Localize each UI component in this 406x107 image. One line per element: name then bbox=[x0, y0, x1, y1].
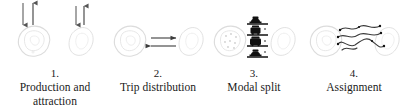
four-step-model-figure: 1. Production and attraction bbox=[0, 0, 406, 107]
step-4-number: 4. bbox=[302, 66, 406, 80]
step-4-artwork bbox=[302, 0, 406, 68]
step-2-label-line-1: Trip distribution bbox=[110, 80, 206, 94]
zone-blob-2a bbox=[114, 26, 145, 56]
step-1-label-line-1: Production and bbox=[0, 80, 110, 94]
step-3-caption: 3. Modal split bbox=[206, 66, 302, 94]
step-modal-split: 3. Modal split bbox=[206, 0, 302, 107]
mode-train-icon bbox=[250, 37, 261, 47]
step-3-label-line-1: Modal split bbox=[206, 80, 302, 94]
assignment-network-routes bbox=[338, 25, 384, 50]
step-3-artwork bbox=[206, 0, 302, 68]
step-1-artwork bbox=[0, 0, 110, 68]
step-trip-distribution: 2. Trip distribution bbox=[110, 0, 206, 107]
step-2-artwork bbox=[110, 0, 206, 68]
trip-origin-dots bbox=[224, 33, 237, 49]
mode-car-icon bbox=[250, 17, 262, 24]
step-production-attraction: 1. Production and attraction bbox=[0, 0, 110, 107]
route-1 bbox=[340, 25, 380, 30]
step-1-caption: 1. Production and attraction bbox=[0, 66, 110, 107]
route-4 bbox=[342, 48, 357, 50]
step-3-number: 3. bbox=[206, 66, 302, 80]
step-1-label-line-2: attraction bbox=[0, 94, 110, 107]
route-2 bbox=[338, 33, 381, 37]
zone-blob-2b bbox=[179, 28, 203, 56]
zone-blob-1b bbox=[69, 28, 93, 56]
mode-extra-icon bbox=[250, 50, 262, 57]
zone-blob-3b bbox=[271, 28, 295, 56]
step-2-caption: 2. Trip distribution bbox=[110, 66, 206, 94]
zone-blob-4b bbox=[375, 28, 399, 56]
step-1-number: 1. bbox=[0, 66, 110, 80]
step-4-label-line-1: Assignment bbox=[302, 80, 406, 94]
zone-blob-3a bbox=[214, 26, 245, 56]
zone-blob-1a bbox=[18, 26, 49, 56]
step-assignment: 4. Assignment bbox=[302, 0, 406, 107]
steps-row: 1. Production and attraction bbox=[0, 0, 406, 107]
zone-blob-4a bbox=[310, 26, 341, 56]
modal-split-vehicle-stack bbox=[247, 17, 268, 57]
route-3 bbox=[338, 39, 384, 47]
step-4-caption: 4. Assignment bbox=[302, 66, 406, 94]
mode-bus-icon bbox=[251, 25, 261, 35]
step-2-number: 2. bbox=[110, 66, 206, 80]
